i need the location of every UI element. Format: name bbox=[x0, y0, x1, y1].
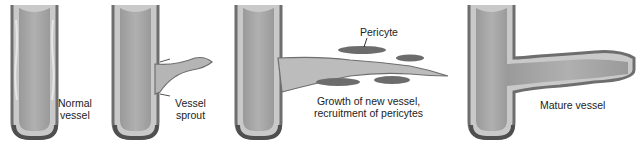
label-line: Growth of new vessel, bbox=[314, 95, 423, 107]
label-line: Vessel bbox=[175, 97, 206, 109]
angiogenesis-diagram bbox=[0, 0, 643, 143]
label-line: recruitment of pericytes bbox=[314, 107, 423, 119]
pericyte-cell bbox=[338, 46, 386, 54]
vessel-sprout-label: Vessel sprout bbox=[175, 97, 206, 121]
growth-label: Growth of new vessel, recruitment of per… bbox=[314, 95, 423, 119]
normal-vessel-label: Normal vessel bbox=[58, 97, 92, 121]
mature-vessel-label: Mature vessel bbox=[540, 99, 605, 111]
mature-vessel-illustration bbox=[469, 5, 634, 138]
label-line: vessel bbox=[58, 109, 92, 121]
pericyte-callout: Pericyte bbox=[360, 26, 398, 38]
pericyte-pointer bbox=[364, 38, 367, 47]
label-line: sprout bbox=[175, 109, 206, 121]
label-line: Normal bbox=[58, 97, 92, 109]
normal-vessel-illustration bbox=[12, 5, 57, 138]
